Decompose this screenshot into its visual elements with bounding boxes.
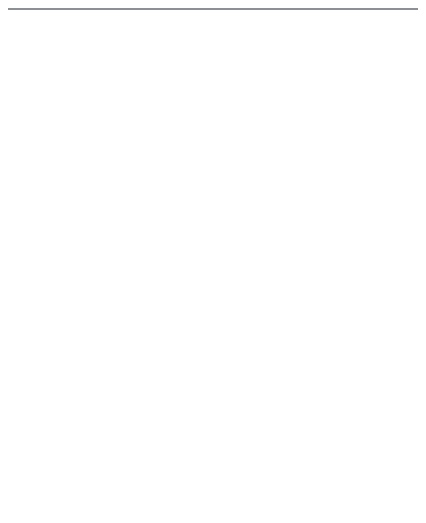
figure-caption	[8, 0, 418, 8]
header-rule	[8, 8, 418, 10]
